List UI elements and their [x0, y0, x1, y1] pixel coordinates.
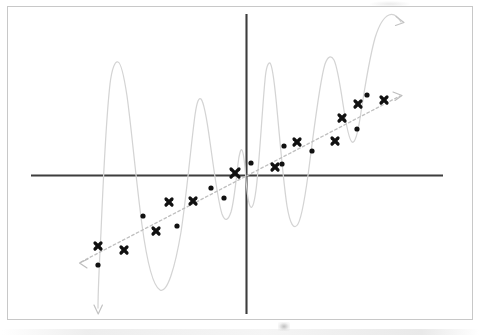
cross-marker: [166, 199, 172, 205]
axes-group: [31, 14, 443, 314]
dot-marker: [95, 262, 100, 267]
cross-marker: [332, 138, 338, 144]
dot-marker: [281, 143, 286, 148]
underfit-trend-line: [81, 96, 400, 262]
dot-marker: [221, 195, 226, 200]
dot-marker: [174, 223, 179, 228]
cross-marker: [121, 247, 127, 253]
figure-root: [0, 0, 481, 336]
dot-marker: [140, 213, 145, 218]
underfit-trend-line-group: [80, 92, 403, 268]
cross-marker: [339, 115, 345, 121]
dot-marker: [279, 161, 284, 166]
cross-marker: [190, 198, 196, 204]
dot-marker: [248, 160, 253, 165]
cross-marker: [294, 139, 300, 145]
dot-marker: [309, 148, 314, 153]
cross-marker: [153, 228, 159, 234]
cross-marker: [355, 101, 361, 107]
dot-marker: [364, 92, 369, 97]
dot-marker: [354, 126, 359, 131]
scatter-plot-canvas: [0, 0, 481, 336]
dot-marker: [208, 185, 213, 190]
cross-marker: [95, 243, 101, 249]
cross-marker: [272, 164, 278, 170]
cross-marker: [381, 97, 387, 103]
